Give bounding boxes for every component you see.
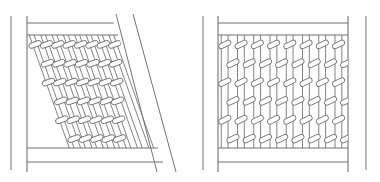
- figure-root: Knitted fabric structure comparison diag…: [0, 0, 380, 182]
- diagram-background: [0, 0, 380, 182]
- fabric-structure-diagram: Knitted fabric structure comparison diag…: [0, 0, 380, 182]
